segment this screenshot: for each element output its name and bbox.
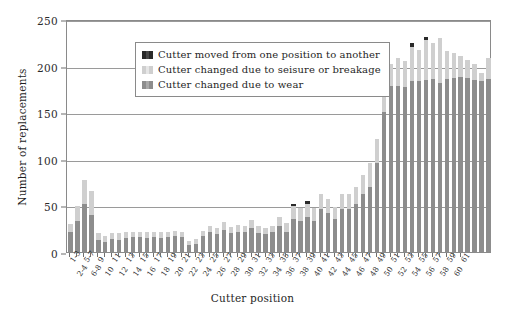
bar-segment bbox=[222, 222, 226, 229]
bar-segment bbox=[333, 207, 337, 219]
x-tick-label: 60 bbox=[452, 265, 465, 278]
x-tick-label: 56 bbox=[424, 265, 437, 278]
bar-segment bbox=[347, 209, 351, 252]
bar-segment bbox=[479, 73, 483, 80]
x-tick-label: 50 bbox=[382, 265, 395, 278]
x-tick-label: 18 bbox=[159, 265, 172, 278]
bar-segment bbox=[417, 81, 421, 252]
bar-stack bbox=[173, 231, 177, 252]
x-tick-mark bbox=[174, 253, 175, 257]
bar-segment bbox=[326, 213, 330, 252]
bar-stack bbox=[68, 224, 72, 252]
bar-segment bbox=[208, 232, 212, 252]
bar-segment bbox=[75, 221, 79, 252]
bar-stack bbox=[75, 206, 79, 252]
bar-stack bbox=[215, 228, 219, 252]
x-tick-label: 10 bbox=[103, 265, 116, 278]
bar-segment bbox=[291, 219, 295, 252]
bar-segment bbox=[256, 233, 260, 252]
x-tick-label: 16 bbox=[145, 265, 158, 278]
bar-segment bbox=[305, 217, 309, 252]
bar-segment bbox=[424, 40, 428, 79]
bar-segment bbox=[138, 237, 142, 252]
y-tick-label: 0 bbox=[51, 248, 58, 260]
x-tick-label: 24 bbox=[201, 265, 214, 278]
bar-stack bbox=[270, 226, 274, 252]
bar-stack bbox=[298, 208, 302, 252]
x-tick-mark bbox=[453, 253, 454, 257]
bar-segment bbox=[431, 43, 435, 78]
bar-segment bbox=[375, 139, 379, 162]
bar-segment bbox=[486, 58, 490, 79]
bar-segment bbox=[465, 60, 469, 78]
bar-segment bbox=[201, 236, 205, 252]
bar-segment bbox=[82, 180, 86, 203]
bar-segment bbox=[96, 240, 100, 252]
x-tick-mark bbox=[439, 253, 440, 257]
bar-segment bbox=[180, 237, 184, 252]
bar-segment bbox=[458, 77, 462, 252]
legend-swatch-seizure-icon bbox=[142, 66, 153, 74]
bar-segment bbox=[68, 232, 72, 253]
bar-segment bbox=[452, 78, 456, 252]
x-tick-mark bbox=[76, 253, 77, 257]
bar-segment bbox=[110, 239, 114, 252]
bar-stack bbox=[187, 241, 191, 252]
bar-stack bbox=[110, 233, 114, 252]
x-tick-mark bbox=[425, 253, 426, 257]
bar-stack bbox=[361, 175, 365, 252]
bar-segment bbox=[298, 208, 302, 221]
bar-stack bbox=[375, 139, 379, 252]
x-tick-mark bbox=[355, 253, 356, 257]
bar-segment bbox=[277, 226, 281, 252]
x-tick-mark bbox=[313, 253, 314, 257]
bar-stack bbox=[465, 60, 469, 252]
bar-segment bbox=[465, 78, 469, 252]
bar-segment bbox=[417, 50, 421, 81]
bar-stack bbox=[284, 223, 288, 252]
bar-segment bbox=[270, 232, 274, 252]
bar-stack bbox=[403, 61, 407, 252]
legend-label-seizure: Cutter changed due to seisure or breakag… bbox=[158, 64, 381, 75]
y-tick-label: 100 bbox=[37, 155, 58, 167]
bar-stack bbox=[180, 232, 184, 252]
x-tick-label: 58 bbox=[438, 265, 451, 278]
bar-segment bbox=[472, 80, 476, 252]
bar-segment bbox=[319, 194, 323, 209]
bar-stack bbox=[305, 201, 309, 252]
bar-stack bbox=[249, 220, 253, 252]
bar-stack bbox=[263, 228, 267, 252]
bar-segment bbox=[166, 237, 170, 252]
bar-segment bbox=[319, 209, 323, 252]
bar-stack bbox=[236, 225, 240, 252]
bar-segment bbox=[187, 245, 191, 252]
y-tick-label: 200 bbox=[37, 62, 58, 74]
bar-segment bbox=[305, 204, 309, 217]
bar-segment bbox=[368, 187, 372, 252]
bar-segment bbox=[89, 191, 93, 215]
y-tick-label: 150 bbox=[37, 108, 58, 120]
bar-segment bbox=[284, 232, 288, 253]
x-tick-label: 6-8 bbox=[89, 263, 103, 278]
bar-stack bbox=[124, 232, 128, 252]
bar-stack bbox=[486, 58, 490, 252]
bar-segment bbox=[291, 206, 295, 219]
x-axis: 1-32-45-76-89101112131415161718192021222… bbox=[66, 253, 491, 297]
bar-segment bbox=[403, 61, 407, 87]
bar-segment bbox=[403, 87, 407, 252]
bar-segment bbox=[354, 187, 358, 204]
chart-root: Number of replacements 050100150200250 C… bbox=[0, 0, 505, 314]
plot-area: Cutter moved from one position to anothe… bbox=[66, 20, 491, 253]
bar-segment bbox=[229, 233, 233, 252]
bar-segment bbox=[236, 232, 240, 253]
bar-stack bbox=[117, 233, 121, 252]
bar-segment bbox=[131, 237, 135, 252]
x-tick-mark bbox=[397, 253, 398, 257]
x-tick-label: 40 bbox=[312, 265, 325, 278]
bar-stack bbox=[417, 50, 421, 252]
x-tick-label: 22 bbox=[187, 265, 200, 278]
bar-segment bbox=[249, 228, 253, 252]
bar-segment bbox=[145, 238, 149, 252]
y-tick-label: 50 bbox=[44, 201, 58, 213]
bar-segment bbox=[382, 112, 386, 252]
